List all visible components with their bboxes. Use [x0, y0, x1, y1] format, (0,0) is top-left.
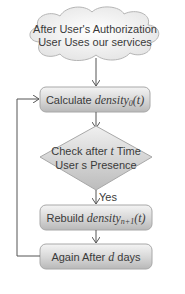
start-line-1: After User's Authorization — [33, 23, 157, 35]
check-diamond — [40, 126, 152, 190]
check-line-2: User s Presence — [55, 159, 136, 171]
calculate-arg: (t) — [133, 93, 144, 107]
rebuild-node: Rebuild densityn+1(t) — [40, 205, 152, 230]
calculate-node: Calculate density0(t) — [40, 87, 150, 112]
start-cloud-node: After User's Authorization User Uses our… — [30, 7, 159, 61]
calculate-label-text: Calculate — [46, 94, 95, 106]
rebuild-var: density — [87, 211, 122, 225]
check-line-1-post: Time — [114, 145, 141, 157]
rebuild-subscript: n+1 — [121, 217, 134, 226]
calculate-var: density — [95, 93, 130, 107]
yes-edge-label: Yes — [99, 191, 117, 203]
rebuild-arg: (t) — [134, 211, 145, 225]
rebuild-label-text: Rebuild — [46, 212, 86, 224]
flowchart: After User's Authorization User Uses our… — [0, 0, 185, 294]
again-node: Again After d days — [40, 244, 152, 269]
again-label: Again After d days — [51, 250, 141, 264]
start-line-2: User Uses our services — [38, 36, 152, 48]
loop-arrow-again-to-calculate — [17, 99, 40, 256]
check-line-1-pre: Check after — [51, 145, 110, 157]
check-line-1: Check after t Time — [51, 144, 141, 158]
again-label-post: days — [114, 251, 141, 263]
check-decision-node: Check after t Time User s Presence — [40, 126, 152, 190]
again-label-pre: Again After — [51, 251, 108, 263]
